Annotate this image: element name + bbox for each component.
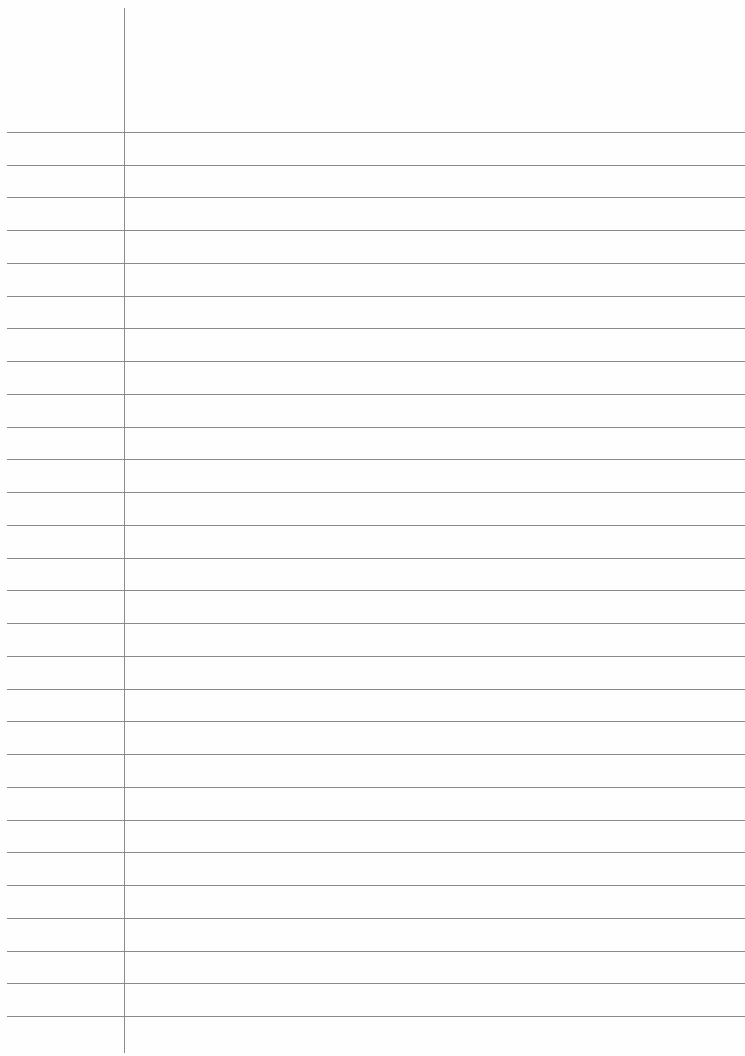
ruled-line	[7, 263, 745, 264]
ruled-line	[7, 361, 745, 362]
ruled-line	[7, 558, 745, 559]
ruled-line	[7, 983, 745, 984]
ruled-line	[7, 492, 745, 493]
ruled-line	[7, 885, 745, 886]
ruled-line	[7, 328, 745, 329]
ruled-line	[7, 427, 745, 428]
ruled-line	[7, 230, 745, 231]
ruled-line	[7, 132, 745, 133]
ruled-line	[7, 656, 745, 657]
ruled-line	[7, 721, 745, 722]
ruled-line	[7, 296, 745, 297]
ruled-line	[7, 525, 745, 526]
ruled-line	[7, 787, 745, 788]
ruled-line	[7, 820, 745, 821]
ruled-line	[7, 623, 745, 624]
lined-paper-sheet	[0, 0, 745, 1056]
ruled-line	[7, 754, 745, 755]
ruled-line	[7, 1016, 745, 1017]
ruled-line	[7, 394, 745, 395]
ruled-line	[7, 689, 745, 690]
ruled-line	[7, 459, 745, 460]
ruled-line	[7, 951, 745, 952]
ruled-line	[7, 197, 745, 198]
ruled-line	[7, 590, 745, 591]
ruled-line	[7, 918, 745, 919]
ruled-line	[7, 165, 745, 166]
ruled-line	[7, 852, 745, 853]
